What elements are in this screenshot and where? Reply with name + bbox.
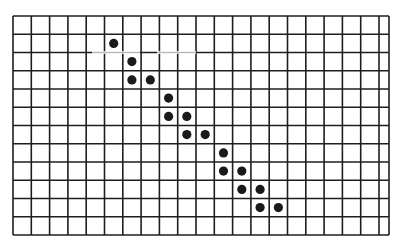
dot	[237, 167, 246, 176]
dot	[219, 167, 228, 176]
dot	[127, 57, 136, 66]
dot	[219, 148, 228, 157]
dot	[146, 75, 155, 84]
dot	[237, 185, 246, 194]
dot	[164, 112, 173, 121]
dot	[182, 112, 191, 121]
dot	[127, 75, 136, 84]
dot	[164, 94, 173, 103]
dot	[109, 39, 118, 48]
dot	[201, 130, 210, 139]
dot	[274, 203, 283, 212]
dot	[256, 185, 265, 194]
dot-grid-diagram	[0, 0, 403, 248]
dot	[182, 130, 191, 139]
dot	[256, 203, 265, 212]
